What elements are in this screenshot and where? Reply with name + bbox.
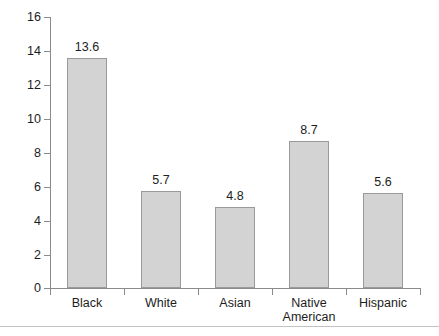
x-category-label-hispanic: Hispanic (343, 296, 423, 310)
x-tick-boundary-5 (420, 289, 421, 295)
y-tick-label-10-wrap: 10 (8, 113, 41, 125)
x-tick-boundary-0 (50, 289, 51, 295)
y-tick-label-2-wrap: 2 (8, 249, 41, 261)
x-category-label-asian: Asian (195, 296, 275, 310)
y-tick-label-14: 14 (11, 45, 41, 57)
x-tick-boundary-2 (198, 289, 199, 295)
x-category-label-native-american-line2: American (269, 310, 349, 324)
y-tick-label-8-wrap: 8 (8, 147, 41, 159)
y-tick-label-0-wrap: 0 (8, 282, 41, 294)
x-category-label-native-american: Native American (269, 296, 349, 324)
y-tick-6 (44, 187, 50, 188)
bar-value-native-american: 8.7 (279, 124, 339, 137)
x-category-label-black: Black (47, 296, 127, 310)
bar-value-hispanic: 5.6 (353, 176, 413, 189)
y-tick-label-12: 12 (11, 79, 41, 91)
y-tick-label-4: 4 (11, 215, 41, 227)
y-tick-label-12-wrap: 12 (8, 79, 41, 91)
bar-asian (215, 207, 255, 288)
y-tick-10 (44, 119, 50, 120)
y-tick-4 (44, 221, 50, 222)
y-tick-label-6: 6 (11, 181, 41, 193)
bar-hispanic (363, 193, 403, 288)
y-tick-label-4-wrap: 4 (8, 215, 41, 227)
bar-value-white: 5.7 (131, 174, 191, 187)
x-category-label-white: White (121, 296, 201, 310)
x-tick-boundary-4 (346, 289, 347, 295)
y-axis-line (50, 17, 51, 289)
y-tick-label-0: 0 (11, 282, 41, 294)
y-tick-16 (44, 17, 50, 18)
bottom-divider (0, 326, 439, 327)
y-tick-label-2: 2 (11, 249, 41, 261)
y-tick-label-16: 16 (11, 11, 41, 23)
bar-native-american (289, 141, 329, 288)
bar-chart: 16 14 12 10 8 6 4 2 0 13.6 5.7 (0, 0, 439, 336)
x-axis-line (50, 288, 421, 289)
y-tick-label-14-wrap: 14 (8, 45, 41, 57)
bar-black (67, 58, 107, 288)
x-category-label-native-american-line1: Native (269, 296, 349, 310)
y-tick-12 (44, 85, 50, 86)
y-tick-label-6-wrap: 6 (8, 181, 41, 193)
x-tick-boundary-1 (124, 289, 125, 295)
y-tick-label-8: 8 (11, 147, 41, 159)
y-tick-8 (44, 153, 50, 154)
y-tick-label-10: 10 (11, 113, 41, 125)
y-tick-label-16-wrap: 16 (8, 11, 41, 23)
bar-white (141, 191, 181, 288)
bar-value-asian: 4.8 (205, 190, 265, 203)
x-tick-boundary-3 (272, 289, 273, 295)
y-tick-2 (44, 255, 50, 256)
bar-value-black: 13.6 (57, 41, 117, 54)
y-tick-14 (44, 51, 50, 52)
